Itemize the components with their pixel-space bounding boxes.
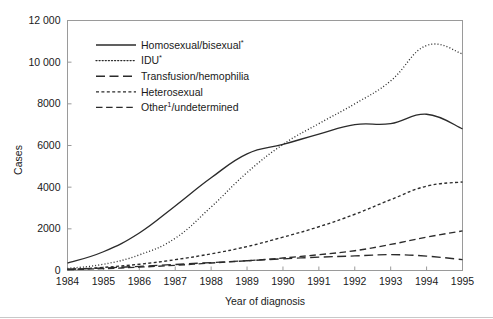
x-tick-label: 1987 [164, 275, 188, 287]
x-tick-label: 1985 [92, 275, 116, 287]
y-axis-tickmarks [68, 21, 72, 271]
x-axis-tick-labels: 1984198519861987198819891990199119921993… [56, 275, 475, 287]
x-tick-label: 1995 [451, 275, 475, 287]
data-series-group [68, 44, 463, 270]
chart-legend: Homosexual/bisexual*IDU*Transfusion/hemo… [96, 37, 249, 113]
legend-label-1: Homosexual/bisexual* [141, 37, 244, 51]
y-tick-label: 8000 [37, 97, 61, 109]
series-line-1 [68, 114, 463, 263]
chart-page: 0200040006000800010 00012 000 1984198519… [0, 0, 493, 319]
x-tick-label: 1994 [415, 275, 439, 287]
series-line-2 [68, 44, 463, 268]
legend-label-3: Transfusion/hemophilia [141, 70, 249, 82]
plot-frame [68, 21, 463, 271]
series-line-5 [68, 231, 463, 270]
x-tick-label: 1984 [56, 275, 80, 287]
x-tick-label: 1993 [379, 275, 403, 287]
aids-cases-line-chart: 0200040006000800010 00012 000 1984198519… [0, 0, 493, 319]
y-tick-label: 6000 [37, 139, 61, 151]
y-axis-title: Cases [12, 145, 24, 175]
x-axis-title: Year of diagnosis [225, 295, 305, 307]
y-tick-label: 2000 [37, 222, 61, 234]
y-tick-label: 12 000 [28, 14, 60, 26]
series-line-4 [68, 182, 463, 269]
legend-label-4: Heterosexual [141, 86, 203, 98]
legend-label-2: IDU* [141, 53, 162, 67]
x-tick-label: 1986 [128, 275, 152, 287]
x-tick-label: 1990 [271, 275, 295, 287]
y-tick-label: 10 000 [28, 56, 60, 68]
y-axis-tick-labels: 0200040006000800010 00012 000 [28, 14, 60, 276]
x-tick-label: 1991 [307, 275, 331, 287]
series-line-3 [68, 255, 463, 270]
legend-label-5: Other1/undetermined [141, 100, 239, 114]
x-tick-label: 1989 [235, 275, 259, 287]
x-tick-label: 1992 [343, 275, 367, 287]
y-tick-label: 4000 [37, 181, 61, 193]
x-tick-label: 1988 [199, 275, 223, 287]
